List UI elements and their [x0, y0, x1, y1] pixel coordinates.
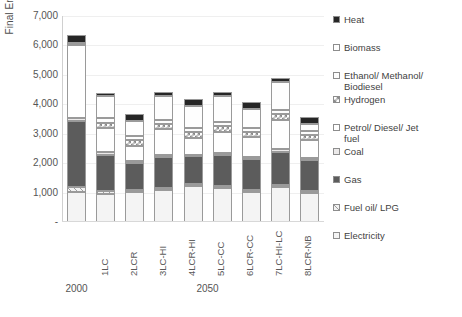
x-axis-group-label: 2000: [47, 283, 107, 294]
bar-segment[interactable]: [67, 187, 86, 192]
bar-segment[interactable]: [125, 136, 144, 140]
bar-segment[interactable]: [96, 152, 115, 155]
bar-segment[interactable]: [242, 190, 261, 192]
bar-segment[interactable]: [154, 129, 173, 154]
bar-segment[interactable]: [96, 191, 115, 194]
bar-column[interactable]: [242, 102, 261, 222]
bar-column[interactable]: [213, 92, 232, 222]
bar-segment[interactable]: [300, 191, 319, 193]
bar-segment[interactable]: [125, 163, 144, 189]
legend-label: Electricity: [344, 230, 385, 241]
bar-segment[interactable]: [242, 109, 261, 128]
bar-segment[interactable]: [271, 82, 290, 110]
legend-swatch-ethanol: [333, 72, 340, 79]
legend-item[interactable]: Hydrogen: [333, 94, 385, 105]
legend-swatch-gas: [333, 176, 340, 183]
bar-segment[interactable]: [300, 131, 319, 135]
bar-segment[interactable]: [125, 114, 144, 122]
bar-column[interactable]: [154, 92, 173, 222]
bar-segment[interactable]: [271, 149, 290, 152]
legend-item[interactable]: Heat: [333, 14, 364, 25]
bar-segment[interactable]: [300, 135, 319, 141]
bar-segment[interactable]: [154, 155, 173, 157]
bar-segment[interactable]: [300, 140, 319, 158]
bar-segment[interactable]: [125, 190, 144, 192]
bar-segment[interactable]: [184, 106, 203, 128]
bar-segment[interactable]: [242, 157, 261, 159]
bar-segment[interactable]: [271, 114, 290, 120]
bar-column[interactable]: [96, 93, 115, 222]
legend-item[interactable]: Biomass: [333, 42, 380, 53]
bar-segment[interactable]: [271, 185, 290, 187]
bar-segment[interactable]: [125, 121, 144, 136]
bar-segment[interactable]: [242, 159, 261, 190]
bar-segment[interactable]: [213, 122, 232, 126]
bar-segment[interactable]: [96, 118, 115, 123]
bar-segment[interactable]: [300, 160, 319, 191]
bar-segment[interactable]: [125, 146, 144, 162]
bar-segment[interactable]: [242, 102, 261, 109]
bar-segment[interactable]: [154, 124, 173, 130]
bar-column[interactable]: [184, 99, 203, 222]
bar-segment[interactable]: [67, 35, 86, 42]
bar-segment[interactable]: [300, 117, 319, 124]
bar-segment[interactable]: [213, 96, 232, 122]
legend-item[interactable]: Gas: [333, 174, 361, 185]
bar-segment[interactable]: [154, 92, 173, 96]
bar-segment[interactable]: [184, 99, 203, 106]
bar-segment[interactable]: [184, 184, 203, 186]
bar-segment[interactable]: [154, 96, 173, 120]
bar-segment[interactable]: [213, 155, 232, 186]
bar-segment[interactable]: [96, 128, 115, 152]
bar-segment[interactable]: [271, 110, 290, 114]
bar-segment[interactable]: [271, 78, 290, 82]
bar-segment[interactable]: [242, 137, 261, 156]
bar-segment[interactable]: [242, 132, 261, 137]
bar-segment[interactable]: [213, 186, 232, 188]
y-axis-tick-label: 7,000: [2, 11, 58, 21]
legend-label-line2: Biodiesel: [344, 81, 423, 92]
bar-segment[interactable]: [125, 140, 144, 146]
bar-segment[interactable]: [96, 155, 115, 191]
bar-segment[interactable]: [67, 43, 86, 45]
bar-segment[interactable]: [184, 128, 203, 132]
bar-segment[interactable]: [184, 154, 203, 156]
bar-segment[interactable]: [213, 132, 232, 153]
legend-item[interactable]: Fuel oil/ LPG: [333, 202, 399, 213]
bar-segment[interactable]: [300, 124, 319, 131]
bar-segment[interactable]: [125, 161, 144, 163]
bar-segment[interactable]: [67, 118, 86, 121]
bar-segment[interactable]: [213, 153, 232, 155]
legend-item[interactable]: Ethanol/ Methanol/Biodiesel: [333, 70, 423, 92]
bar-segment[interactable]: [184, 156, 203, 183]
legend-label: Petrol/ Diesel/ Jetfuel: [344, 122, 418, 144]
bar-segment[interactable]: [67, 45, 86, 119]
bar-segment[interactable]: [96, 93, 115, 97]
bar-column[interactable]: [271, 78, 290, 222]
bar-segment[interactable]: [154, 120, 173, 124]
bar-segment[interactable]: [96, 123, 115, 129]
bar-segment[interactable]: [184, 132, 203, 138]
bar-segment[interactable]: [300, 158, 319, 160]
bar-segment[interactable]: [242, 128, 261, 132]
bar-segment[interactable]: [67, 192, 86, 222]
bar-segment[interactable]: [96, 96, 115, 118]
bar-segment[interactable]: [213, 92, 232, 96]
bar-segment[interactable]: [271, 152, 290, 185]
legend-label: Fuel oil/ LPG: [344, 202, 399, 213]
bar-segment[interactable]: [154, 157, 173, 188]
bar-column[interactable]: [300, 117, 319, 222]
bar-column[interactable]: [125, 114, 144, 222]
x-axis-tick-labels: 1LC2LCR3LC-HI4LCR-HI5LC-CC6LCR-CC7LC-HI-…: [62, 224, 324, 276]
bar-segment[interactable]: [154, 188, 173, 190]
bar-column[interactable]: [67, 35, 86, 222]
bar-segment[interactable]: [67, 121, 86, 187]
legend-item[interactable]: Petrol/ Diesel/ Jetfuel: [333, 122, 418, 144]
bar-segment[interactable]: [271, 120, 290, 149]
bar-segment[interactable]: [184, 138, 203, 155]
legend-swatch-electricity: [333, 232, 340, 239]
y-axis-tick-label: -: [2, 217, 58, 227]
legend-item[interactable]: Electricity: [333, 230, 385, 241]
legend-item[interactable]: Coal: [333, 146, 364, 157]
bar-segment[interactable]: [213, 126, 232, 132]
